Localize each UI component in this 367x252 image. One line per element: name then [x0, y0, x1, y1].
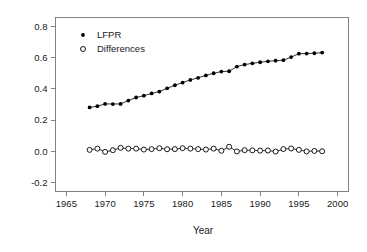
data-point [142, 94, 146, 98]
x-tick-label: 1975 [133, 198, 154, 209]
y-tick-label: 0.8 [34, 21, 47, 32]
legend-marker-open-circle-icon [81, 47, 86, 52]
data-point [250, 148, 255, 153]
data-point [111, 102, 115, 106]
data-point [274, 59, 278, 63]
y-tick-label: 0.2 [34, 114, 47, 125]
data-point [134, 146, 139, 151]
data-point [196, 76, 200, 80]
data-point [227, 144, 232, 149]
data-point [243, 63, 247, 67]
data-point [181, 81, 185, 85]
data-point [172, 147, 177, 152]
data-point [320, 149, 325, 154]
data-point [87, 147, 92, 152]
x-axis: 19651970197519801985199019952000 [56, 192, 348, 209]
data-point [281, 147, 286, 152]
data-point [312, 148, 317, 153]
data-point [126, 146, 131, 151]
x-tick-label: 2000 [327, 198, 348, 209]
data-point [173, 83, 177, 87]
y-axis: -0.20.00.20.40.60.8 [31, 21, 55, 187]
data-point [119, 102, 123, 106]
data-point [234, 149, 239, 154]
data-point [212, 71, 216, 75]
y-tick-label: -0.2 [31, 177, 47, 188]
data-point [203, 147, 208, 152]
data-point [157, 90, 161, 94]
data-point [250, 61, 254, 65]
data-point [95, 146, 100, 151]
x-tick-label: 1990 [250, 198, 271, 209]
data-point [188, 78, 192, 82]
data-point [196, 147, 201, 152]
data-point [126, 99, 130, 103]
data-point [289, 146, 294, 151]
data-point [95, 104, 99, 108]
data-point [219, 148, 224, 153]
data-point [296, 147, 301, 152]
x-tick-label: 1965 [56, 198, 77, 209]
y-tick-label: 0.0 [34, 146, 47, 157]
y-tick-label: 0.4 [34, 83, 47, 94]
legend-label: LFPR [97, 29, 121, 40]
data-point [103, 102, 107, 106]
data-point [180, 146, 185, 151]
data-point [157, 146, 162, 151]
legend-marker-filled-circle-icon [81, 33, 85, 37]
data-point [88, 106, 92, 110]
x-axis-title: Year [193, 225, 214, 236]
data-point [312, 51, 316, 55]
chart-container: 19651970197519801985199019952000 -0.20.0… [0, 0, 367, 252]
data-point [134, 96, 138, 100]
chart-legend: LFPRDifferences [81, 29, 146, 54]
data-point [227, 69, 231, 73]
data-point [320, 51, 324, 55]
data-point [304, 149, 309, 154]
legend-label: Differences [97, 43, 145, 54]
data-point [258, 148, 263, 153]
data-point [258, 60, 262, 64]
data-point [289, 55, 293, 59]
data-point [242, 148, 247, 153]
x-tick-label: 1995 [288, 198, 309, 209]
data-point [235, 65, 239, 69]
data-point [281, 58, 285, 62]
data-point [188, 146, 193, 151]
data-point [211, 146, 216, 151]
data-point [204, 74, 208, 78]
series-line [90, 53, 323, 108]
data-point [165, 147, 170, 152]
data-point [118, 145, 123, 150]
data-series-layer [87, 51, 325, 155]
data-point [165, 86, 169, 90]
data-point [273, 149, 278, 154]
data-point [110, 148, 115, 153]
data-point [150, 92, 154, 96]
data-point [141, 147, 146, 152]
x-tick-label: 1970 [95, 198, 116, 209]
data-point [103, 149, 108, 154]
data-point [265, 148, 270, 153]
x-tick-label: 1985 [211, 198, 232, 209]
data-point [305, 52, 309, 56]
data-point [149, 147, 154, 152]
series-differences [87, 144, 325, 154]
series-lfpr [88, 51, 324, 110]
y-tick-label: 0.6 [34, 52, 47, 63]
x-tick-label: 1980 [172, 198, 193, 209]
data-point [219, 70, 223, 74]
data-point [266, 59, 270, 63]
data-point [297, 52, 301, 56]
chart-canvas: 19651970197519801985199019952000 -0.20.0… [0, 0, 367, 252]
